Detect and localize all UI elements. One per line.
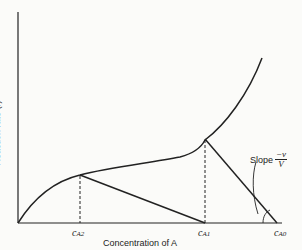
tick-label-ca1: cA1 <box>198 227 210 238</box>
diagram-canvas <box>0 0 302 250</box>
slope-leader-line <box>253 162 258 214</box>
tick-sub: A1 <box>202 230 210 238</box>
tick-label-ca2: cA2 <box>72 227 84 238</box>
tick-sub: A2 <box>76 230 84 238</box>
slope-annotation: Slope −v V <box>250 150 287 169</box>
x-axis-label: Concentration of A <box>103 238 177 248</box>
tick-label-ca0: cA0 <box>274 227 286 238</box>
rate-vs-concentration-diagram: Reaction rate (r) cA2 cA1 cA0 Concentrat… <box>0 0 302 250</box>
slope-denominator: V <box>278 160 284 169</box>
slope-fraction: −v V <box>275 150 287 169</box>
slope-angle-arc <box>263 210 270 223</box>
tick-sub: A0 <box>278 230 286 238</box>
slope-label: Slope <box>250 155 273 165</box>
operating-line-stage-2 <box>80 175 205 223</box>
y-axis-label: Reaction rate (r) <box>0 100 2 165</box>
